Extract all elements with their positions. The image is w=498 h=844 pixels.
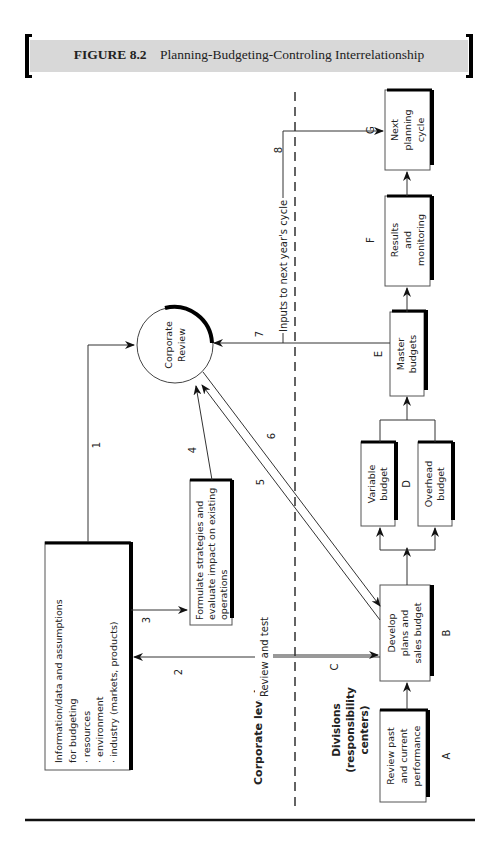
diagram: Corporate level Divisions (responsibilit… <box>0 0 498 844</box>
label-d: D <box>401 480 412 488</box>
svg-text:planning: planning <box>402 109 413 150</box>
arrow-1-label: 1 <box>91 442 102 448</box>
svg-text:· environment: · environment <box>94 696 105 763</box>
svg-text:Information/data and assumptio: Information/data and assumptions <box>53 599 64 763</box>
svg-text:plans and: plans and <box>399 610 410 656</box>
svg-text:for budgeting: for budgeting <box>67 699 78 763</box>
svg-text:Next: Next <box>389 119 400 141</box>
divisions-label: Divisions (responsibility centers) <box>330 687 370 773</box>
svg-text:F: F <box>365 237 376 243</box>
svg-text:budget: budget <box>435 467 446 501</box>
box-b-develop-plans: Develop plans and sales budget B <box>380 585 452 681</box>
inputs-next-year-label: Inputs to next year's cycle <box>278 200 289 332</box>
svg-text:budgets: budgets <box>407 335 418 374</box>
svg-text:Review past: Review past <box>385 727 396 785</box>
svg-text:Variable: Variable <box>366 465 377 504</box>
svg-text:Results: Results <box>389 223 400 257</box>
corporate-level-label: Corporate level <box>252 689 265 785</box>
box-a-review-past: Review past and current performance A <box>380 710 452 802</box>
arrow-4-label: 4 <box>187 447 198 453</box>
svg-text:Overhead: Overhead <box>423 461 434 507</box>
info-assumptions-box: Information/data and assumptions for bud… <box>45 542 131 770</box>
svg-text:G: G <box>365 126 376 134</box>
svg-text:monitoring: monitoring <box>415 214 426 266</box>
arrow-8-label: 8 <box>273 147 284 153</box>
arrow-6-label: 6 <box>266 433 277 439</box>
box-variable-budget: Variable budget <box>361 442 396 526</box>
svg-text:and: and <box>402 231 413 249</box>
arrow-7-label: 7 <box>254 331 265 337</box>
svg-text:E: E <box>373 351 384 357</box>
svg-text:Review: Review <box>176 328 187 362</box>
svg-text:cycle: cycle <box>415 118 426 143</box>
svg-text:evaluate impact on existing: evaluate impact on existing <box>206 488 217 620</box>
svg-text:Master: Master <box>395 338 406 371</box>
svg-text:Divisions: Divisions <box>330 703 342 757</box>
svg-text:and current: and current <box>398 728 409 783</box>
svg-text:centers): centers) <box>358 705 370 754</box>
arrow-4-formulate-to-review <box>196 386 212 480</box>
arrow-2-label: 2 <box>173 669 184 675</box>
svg-text:operations: operations <box>218 569 229 620</box>
formulate-strategies-box: Formulate strategies and evaluate impact… <box>190 480 232 625</box>
box-f-results-monitoring: Results and monitoring F <box>365 196 432 286</box>
svg-text:· resources: · resources <box>81 711 92 763</box>
arrow-c-label: C <box>329 663 340 670</box>
svg-text:· industry (markets, products): · industry (markets, products) <box>108 621 119 763</box>
svg-text:A: A <box>441 752 452 759</box>
svg-text:(responsibility: (responsibility <box>344 687 356 773</box>
review-and-test-label: Review and test <box>259 617 270 697</box>
svg-text:B: B <box>441 629 452 636</box>
box-overhead-budget: Overhead budget <box>418 442 453 526</box>
arrow-5-label: 5 <box>255 479 266 485</box>
arrow-8-inputs-next-cycle <box>283 131 383 343</box>
svg-text:Corporate: Corporate <box>163 321 174 369</box>
svg-text:Develop: Develop <box>386 613 397 652</box>
svg-text:performance: performance <box>411 725 422 786</box>
svg-text:Formulate strategies and: Formulate strategies and <box>194 501 205 620</box>
svg-text:budget: budget <box>378 467 389 501</box>
box-g-next-planning-cycle: Next planning cycle G <box>365 90 432 170</box>
arrow-3-label: 3 <box>141 617 152 623</box>
corporate-review-circle: Corporate Review <box>137 307 213 383</box>
svg-text:sales budget: sales budget <box>412 602 423 663</box>
box-e-master-budgets: Master budgets E <box>373 310 426 396</box>
